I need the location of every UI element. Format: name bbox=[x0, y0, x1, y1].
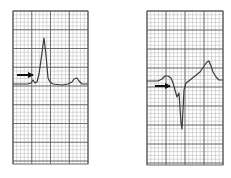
ecg-strip-right bbox=[147, 11, 223, 165]
ecg-strip-left bbox=[13, 11, 88, 164]
ecg-figure-svg bbox=[0, 0, 231, 178]
ecg-figure bbox=[0, 0, 231, 178]
